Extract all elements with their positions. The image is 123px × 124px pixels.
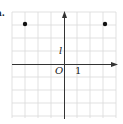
x-unit-label: 1 [75, 66, 81, 76]
origin-label: O [55, 66, 63, 76]
x-axis-arrow-icon [111, 62, 118, 67]
point-right [103, 22, 107, 26]
point-left [23, 22, 27, 26]
coordinate-grid [0, 0, 123, 124]
y-unit-label: l [59, 46, 62, 56]
